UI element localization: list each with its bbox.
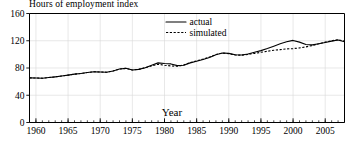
x-tick-label: 1985	[187, 126, 206, 136]
y-axis-tick-labels: 04080120160	[10, 9, 25, 128]
x-tick-label: 1975	[123, 126, 142, 136]
y-tick-label: 160	[10, 9, 25, 19]
x-tick-label: 1965	[59, 126, 78, 136]
x-axis-label: Year	[162, 106, 183, 118]
y-tick-label: 120	[10, 36, 25, 46]
legend-label-actual: actual	[190, 17, 213, 27]
x-axis-tick-labels: 1960196519701975198019851990199520002005	[26, 126, 335, 136]
data-series	[30, 40, 345, 78]
chart-legend: actualsimulated	[166, 17, 227, 38]
chart-plot: 04080120160 1960196519701975198019851990…	[0, 0, 357, 147]
y-tick-label: 0	[20, 118, 25, 128]
x-tick-label: 1960	[26, 126, 45, 136]
x-tick-label: 1995	[251, 126, 270, 136]
gridlines	[30, 14, 345, 123]
x-tick-label: 1980	[155, 126, 174, 136]
legend-label-simulated: simulated	[190, 28, 227, 38]
x-axis-title: Year	[162, 106, 183, 118]
x-tick-label: 1990	[219, 126, 238, 136]
x-tick-label: 1970	[91, 126, 110, 136]
y-tick-label: 80	[15, 63, 25, 73]
series-line-actual	[30, 40, 345, 78]
chart-container: Hours of employment index 04080120160 19…	[0, 0, 357, 147]
x-tick-label: 2000	[284, 126, 303, 136]
series-line-simulated	[30, 40, 345, 78]
x-tick-label: 2005	[316, 126, 335, 136]
y-tick-label: 40	[15, 91, 25, 101]
